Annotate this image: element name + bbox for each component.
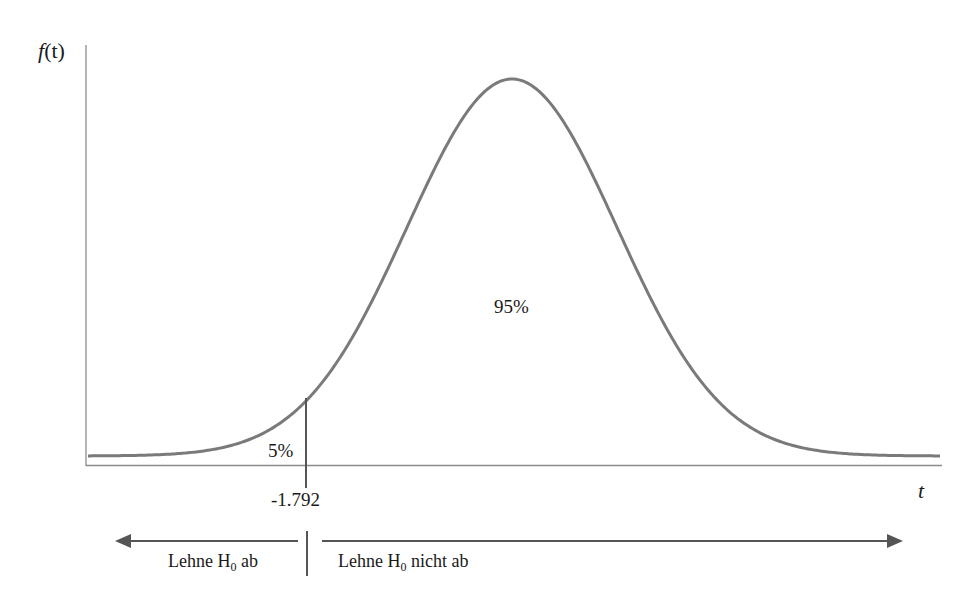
y-axis-label-arg: (t) — [44, 38, 65, 63]
reject-label-prefix: Lehne H — [168, 551, 230, 571]
accept-arrow-head — [887, 534, 903, 548]
accept-label-prefix: Lehne H — [338, 551, 400, 571]
critical-value-label: -1.792 — [271, 490, 320, 509]
accept-label: Lehne H0 nicht ab — [338, 552, 468, 570]
reject-arrow-head — [115, 534, 131, 548]
reject-label: Lehne H0 ab — [168, 552, 258, 570]
y-axis-label: f(t) — [38, 40, 65, 62]
body-area-label: 95% — [494, 297, 529, 316]
density-curve — [88, 79, 940, 456]
tail-area-label: 5% — [268, 441, 293, 460]
reject-label-suffix: ab — [236, 551, 258, 571]
x-axis-label: t — [918, 480, 924, 502]
accept-label-suffix: nicht ab — [406, 551, 468, 571]
chart-canvas — [0, 0, 978, 609]
